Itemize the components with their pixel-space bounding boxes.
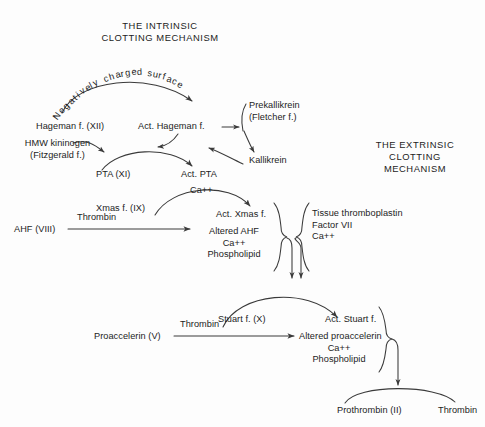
group-tissue-thromboplastin: Tissue thromboplastin Factor VII Ca++ [312, 208, 403, 243]
label-thrombin-proaccelerin: Thrombin [180, 319, 219, 331]
group-altered-proaccelerin: Altered proaccelerin Ca++ Phospholipid [299, 331, 379, 366]
node-act-pta: Act. PTA [181, 169, 217, 181]
arrow-xmas-ahf-group-down [287, 238, 292, 278]
arrow-kallikrein-to-act-pta-arc [209, 148, 243, 164]
node-thrombin-final: Thrombin [438, 405, 477, 417]
node-act-hageman-factor: Act. Hageman f. [138, 121, 205, 133]
node-pta: PTA (XI) [96, 169, 130, 181]
arc-prothrombin-to-thrombin [345, 389, 455, 403]
brace-tissue-thromboplastin-group [296, 203, 309, 271]
group-altered-ahf: Altered AHF Ca++ Phospholipid [196, 226, 272, 261]
arrow-act-hageman-to-act-pta [158, 134, 178, 147]
label-thrombin-ahf: Thrombin [77, 212, 116, 224]
title-extrinsic: THE EXTRINSIC CLOTTING MECHANISM [360, 139, 470, 175]
node-act-stuart-factor: Act. Stuart f. [325, 314, 376, 326]
arrow-stuart-group-down [392, 339, 398, 385]
node-hageman-factor: Hageman f. (XII) [36, 121, 104, 133]
arrow-pta-to-act-pta [102, 152, 192, 170]
arrow-negatively-charged-surface [62, 82, 192, 113]
node-hmw-kininogen: HMW kininogen (Fitzgerald f.) [10, 138, 105, 161]
node-act-xmas-factor: Act. Xmas f. [216, 209, 266, 221]
clotting-cascade-diagram: THE INTRINSIC CLOTTING MECHANISM THE EXT… [0, 0, 485, 427]
arrow-prekallikrein-to-kallikrein [244, 131, 254, 152]
bracket-prekallikrein [242, 104, 246, 131]
arrow-tissue-group-down [295, 238, 301, 278]
node-kallikrein: Kallikrein [249, 155, 287, 167]
node-ahf: AHF (VIII) [14, 224, 55, 236]
node-proaccelerin: Proaccelerin (V) [94, 331, 161, 343]
title-intrinsic: THE INTRINSIC CLOTTING MECHANISM [80, 20, 240, 44]
label-calcium-pta: Ca++ [190, 185, 213, 197]
node-stuart-factor: Stuart f. (X) [218, 314, 266, 326]
node-prekallikrein: Prekallikrein (Fletcher f.) [249, 100, 300, 123]
node-prothrombin: Prothrombin (II) [337, 405, 402, 417]
brace-xmas-ahf-group [274, 203, 287, 271]
